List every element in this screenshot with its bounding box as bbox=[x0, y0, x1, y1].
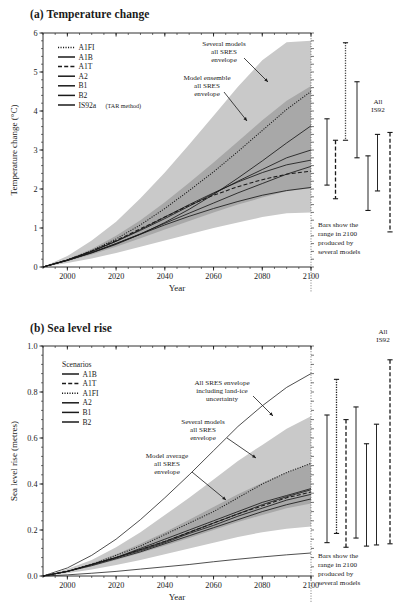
annotation-line: all SRES bbox=[211, 48, 237, 56]
x-tick-label: 2080 bbox=[254, 272, 270, 281]
annotation-line: Model ensemble bbox=[183, 74, 230, 82]
legend-label-a1b: A1B bbox=[79, 53, 93, 62]
y-axis-title: Temperature change (°C) bbox=[9, 105, 19, 196]
legend-label-b2: B2 bbox=[83, 418, 92, 427]
x-axis-title: Year bbox=[169, 283, 186, 293]
legend-label-a1t: A1T bbox=[79, 62, 93, 71]
all-is92-label-line2: IS92 bbox=[371, 106, 385, 114]
annotation-line: Model average bbox=[146, 452, 188, 460]
panel-temperature-change: (a) Temperature change 01234562000202020… bbox=[0, 0, 402, 300]
x-tick-label: 2080 bbox=[254, 581, 270, 590]
annotation-line: Several models bbox=[202, 40, 246, 48]
y-tick-label: 0.4 bbox=[27, 480, 37, 489]
all-is92-label-line1: All bbox=[378, 328, 387, 336]
legend-label-b1: B1 bbox=[83, 408, 92, 417]
legend-label-a1t: A1T bbox=[83, 379, 97, 388]
annotation-line: envelope bbox=[190, 434, 216, 442]
bars-caption-line: range in 2100 bbox=[318, 561, 357, 569]
x-axis-title: Year bbox=[169, 592, 186, 602]
y-tick-label: 6 bbox=[33, 29, 37, 38]
legend-label-suffix: (TAR method) bbox=[106, 103, 142, 110]
bars-caption-line: several models bbox=[318, 248, 361, 256]
legend-label-b2: B2 bbox=[79, 91, 88, 100]
panel-b-plot: 0.00.20.40.60.81.02000202020402060208021… bbox=[0, 300, 402, 609]
x-tick-label: 2020 bbox=[108, 272, 124, 281]
y-tick-label: 0.0 bbox=[27, 572, 37, 581]
annotation-line: envelope bbox=[194, 90, 220, 98]
bars-caption-line: Bars show the bbox=[318, 552, 358, 560]
y-tick-label: 0.2 bbox=[27, 526, 37, 535]
y-tick-label: 3 bbox=[33, 146, 37, 155]
annotation-line: All SRES envelope bbox=[194, 379, 249, 387]
legend-label-a2: A2 bbox=[83, 398, 92, 407]
y-tick-label: 5 bbox=[33, 68, 37, 77]
x-tick-label: 2060 bbox=[205, 581, 221, 590]
legend-label-a1b: A1B bbox=[83, 370, 97, 379]
legend-label-is92a: IS92a bbox=[79, 101, 97, 110]
annotation-leader bbox=[227, 438, 256, 458]
annotation-leader bbox=[253, 396, 273, 416]
figure-page: (a) Temperature change 01234562000202020… bbox=[0, 0, 402, 609]
x-tick-label: 2000 bbox=[59, 272, 75, 281]
annotation-line: Several models bbox=[181, 418, 225, 426]
legend-label-b1: B1 bbox=[79, 81, 88, 90]
x-tick-label: 2040 bbox=[157, 581, 173, 590]
annotation-line: envelope bbox=[154, 468, 180, 476]
x-tick-label: 2100 bbox=[303, 581, 319, 590]
annotation-line: envelope bbox=[211, 56, 237, 64]
y-tick-label: 0.6 bbox=[27, 434, 37, 443]
x-tick-label: 2040 bbox=[157, 272, 173, 281]
x-tick-label: 2060 bbox=[205, 272, 221, 281]
y-tick-label: 0.8 bbox=[27, 388, 37, 397]
legend-label-a1fi: A1FI bbox=[83, 389, 100, 398]
legend-label-a2: A2 bbox=[79, 72, 88, 81]
all-is92-label-line1: All bbox=[373, 98, 382, 106]
x-tick-label: 2000 bbox=[59, 581, 75, 590]
annotation-line: all SRES bbox=[194, 82, 220, 90]
y-tick-label: 0 bbox=[33, 263, 37, 272]
bars-caption-line: several models bbox=[318, 579, 361, 587]
y-tick-label: 1.0 bbox=[27, 342, 37, 351]
x-tick-label: 2100 bbox=[303, 272, 319, 281]
bars-caption-line: produced by bbox=[318, 239, 354, 247]
annotation-line: all SRES bbox=[154, 460, 180, 468]
range-bars-2100 bbox=[324, 360, 392, 547]
panel-a-plot: 0123456200020202040206020802100YearTempe… bbox=[0, 0, 402, 300]
bars-caption-line: produced by bbox=[318, 570, 354, 578]
legend-header: Scenarios bbox=[62, 360, 92, 369]
panel-sea-level-rise: (b) Sea level rise 0.00.20.40.60.81.0200… bbox=[0, 300, 402, 609]
y-tick-label: 2 bbox=[33, 185, 37, 194]
range-bars-2100 bbox=[324, 43, 392, 232]
x-tick-label: 2020 bbox=[108, 581, 124, 590]
annotation-line: all SRES bbox=[190, 426, 216, 434]
y-axis-title: Sea level rise (metres) bbox=[9, 421, 19, 501]
legend-label-a1fi: A1FI bbox=[79, 43, 96, 52]
y-tick-label: 4 bbox=[33, 107, 37, 116]
annotation-line: uncertainty bbox=[206, 395, 238, 403]
bars-caption-line: Bars show the bbox=[318, 221, 358, 229]
annotation-line: including land-ice bbox=[196, 387, 247, 395]
all-is92-label-line2: IS92 bbox=[376, 336, 390, 344]
y-tick-label: 1 bbox=[33, 224, 37, 233]
bars-caption-line: range in 2100 bbox=[318, 230, 357, 238]
